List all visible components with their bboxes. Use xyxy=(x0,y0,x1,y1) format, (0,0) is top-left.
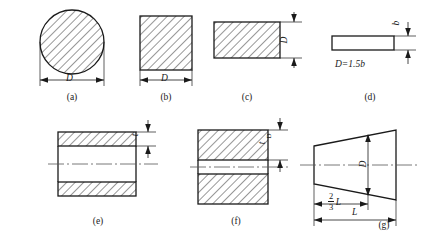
arrowhead-bottom xyxy=(145,146,151,154)
rectangle-outline xyxy=(214,22,280,58)
dimension-label-D: D xyxy=(358,161,368,168)
lower-wall xyxy=(58,182,136,196)
figure-a: D (a) xyxy=(22,4,132,104)
figure-g: D 2 3 L L (g) xyxy=(300,126,422,236)
arrowhead-bottom xyxy=(277,160,283,168)
fraction-denominator: 3 xyxy=(328,203,334,212)
upper-wall xyxy=(198,130,268,160)
arrowhead-left xyxy=(140,77,148,83)
circle-outline xyxy=(40,10,104,74)
dimension-label-D: D xyxy=(66,73,73,83)
figure-caption-e: (e) xyxy=(84,216,112,226)
figure-a-drawing xyxy=(22,4,132,104)
arrowhead-right xyxy=(184,77,192,83)
figure-f: t D (f) xyxy=(190,124,306,228)
figure-e: t (e) xyxy=(48,124,168,228)
figure-d: b D=1.5b (d) xyxy=(318,4,426,104)
lower-wall xyxy=(198,174,268,204)
figure-caption-f: (f) xyxy=(222,216,250,226)
arrowhead-23L-right xyxy=(360,201,368,207)
arrowhead-bottom xyxy=(405,50,411,58)
figure-c-drawing xyxy=(208,4,318,104)
figure-f-drawing xyxy=(190,124,306,228)
arrowhead-top xyxy=(145,124,151,132)
figure-c: D (c) xyxy=(208,4,318,104)
arrowhead-top xyxy=(277,122,283,130)
dimension-label-t: t xyxy=(130,134,140,137)
upper-wall xyxy=(58,132,136,146)
dimension-label-two-thirds-L: 2 3 L xyxy=(328,192,341,211)
arrowhead-top xyxy=(405,28,411,36)
dimension-label-D: D xyxy=(161,73,168,83)
fraction-numerator: 2 xyxy=(328,192,334,201)
arrowhead-L-left xyxy=(314,217,322,223)
fraction-stack: 2 3 xyxy=(328,192,334,211)
bar-outline xyxy=(332,36,394,50)
figure-caption-g: (g) xyxy=(370,220,398,230)
figure-caption-c: (c) xyxy=(233,92,261,102)
dimension-label-b: b xyxy=(391,21,401,26)
arrowhead-23L-left xyxy=(314,201,322,207)
arrowhead-left xyxy=(40,77,48,83)
note-label-D-equals: D=1.5b xyxy=(335,59,365,69)
figure-d-drawing xyxy=(318,4,426,104)
dimension-label-L: L xyxy=(352,207,357,217)
dimension-label-t: t xyxy=(257,142,267,145)
figure-sheet: D (a) D (b) xyxy=(0,0,426,248)
figure-caption-b: (b) xyxy=(152,92,180,102)
arrowhead-top xyxy=(291,14,297,22)
dimension-sublabel-D: D xyxy=(265,133,273,138)
figure-caption-a: (a) xyxy=(58,92,86,102)
square-outline xyxy=(140,16,192,70)
fraction-unit-label: L xyxy=(336,197,341,207)
figure-e-drawing xyxy=(48,124,168,228)
dimension-label-D: D xyxy=(279,37,289,44)
figure-g-drawing xyxy=(300,126,422,236)
arrowhead-bottom xyxy=(291,58,297,66)
arrowhead-right xyxy=(96,77,104,83)
figure-caption-d: (d) xyxy=(356,92,384,102)
